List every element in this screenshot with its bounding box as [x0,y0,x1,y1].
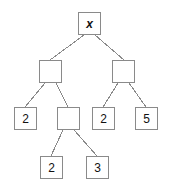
tree-node-n3-leaf[interactable]: 2 [14,107,37,130]
tree-node-n8-leaf[interactable]: 3 [86,156,109,179]
tree-node-n0-leaf[interactable]: x [78,12,101,35]
tree-node-n7-leaf[interactable]: 2 [40,156,63,179]
tree-node-n4-empty[interactable] [57,107,80,130]
tree-node-n5-leaf[interactable]: 2 [92,107,115,130]
tree-node-label: 2 [48,162,55,174]
tree-node-label: 2 [100,113,107,125]
tree-node-layer: x22523 [0,0,173,196]
tree-node-n6-leaf[interactable]: 5 [135,107,158,130]
tree-node-n1-empty[interactable] [39,60,62,83]
tree-node-label: 2 [22,113,29,125]
tree-node-label: x [86,18,93,30]
binary-tree-diagram: x22523 [0,0,173,196]
tree-node-label: 5 [143,113,150,125]
tree-node-n2-empty[interactable] [112,60,135,83]
tree-node-label: 3 [94,162,101,174]
